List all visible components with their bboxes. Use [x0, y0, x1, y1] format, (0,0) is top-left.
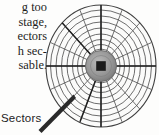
spindle-hub	[86, 51, 117, 82]
disk-platter-diagram	[43, 0, 159, 135]
figure-page: g too stage, ectors h sec- sable.	[0, 0, 159, 135]
sectors-caption-label: Sectors	[1, 112, 41, 124]
spindle-hole-icon	[96, 61, 106, 71]
